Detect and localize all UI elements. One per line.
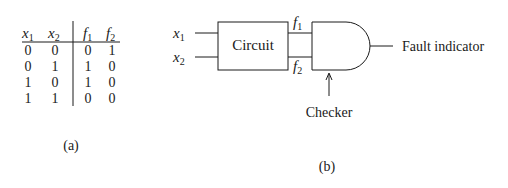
svg-text:0: 0 (85, 91, 92, 106)
table-row: 1 0 1 0 (25, 75, 116, 90)
circuit-label: Circuit (232, 37, 274, 53)
svg-text:1: 1 (25, 75, 32, 90)
svg-text:0: 0 (85, 43, 92, 58)
and-gate-checker (312, 22, 370, 70)
svg-text:0: 0 (25, 43, 32, 58)
svg-text:1: 1 (52, 59, 59, 74)
header-f1: f1 (83, 25, 92, 43)
caption-a: (a) (63, 138, 79, 154)
svg-text:1: 1 (25, 91, 32, 106)
circuit-diagram: x1 x2 Circuit f1 f2 Fault indicator Chec… (172, 14, 484, 175)
header-f2: f2 (106, 25, 115, 43)
svg-text:0: 0 (109, 59, 116, 74)
table-row: 1 1 0 0 (25, 91, 116, 106)
figure: x1 x2 f1 f2 0 0 0 1 0 1 1 0 1 0 1 (0, 0, 508, 188)
checker-label: Checker (306, 105, 353, 120)
caption-b: (b) (319, 159, 336, 175)
svg-text:0: 0 (52, 75, 59, 90)
table-row: 0 0 0 1 (25, 43, 116, 58)
svg-text:1: 1 (85, 59, 92, 74)
svg-text:1: 1 (85, 75, 92, 90)
svg-text:1: 1 (52, 91, 59, 106)
arrow-up-icon (326, 73, 332, 96)
svg-text:1: 1 (109, 43, 116, 58)
svg-text:0: 0 (109, 75, 116, 90)
header-x2: x2 (47, 25, 60, 43)
svg-text:0: 0 (52, 43, 59, 58)
input-label-x2: x2 (172, 49, 185, 67)
svg-text:0: 0 (109, 91, 116, 106)
table-row: 0 1 1 0 (25, 59, 116, 74)
svg-text:0: 0 (25, 59, 32, 74)
output-label-f1: f1 (293, 14, 302, 32)
header-x1: x1 (21, 25, 34, 43)
output-label-f2: f2 (293, 58, 302, 76)
input-label-x1: x1 (172, 25, 185, 43)
fault-indicator-label: Fault indicator (402, 39, 484, 54)
truth-table: x1 x2 f1 f2 0 0 0 1 0 1 1 0 1 0 1 (21, 21, 120, 154)
